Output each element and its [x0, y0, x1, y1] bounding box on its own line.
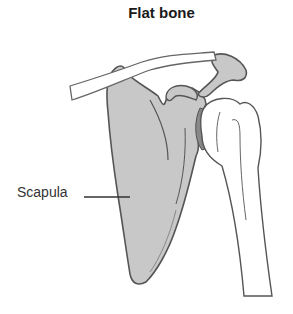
scapula-label: Scapula	[17, 184, 68, 200]
shoulder-illustration	[0, 0, 293, 314]
humerus-shape	[201, 98, 272, 296]
